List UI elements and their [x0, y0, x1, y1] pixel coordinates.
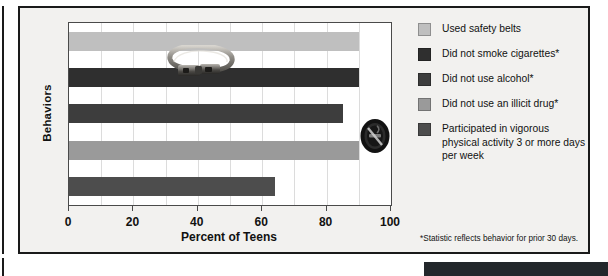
x-tick-label: 20 — [112, 215, 152, 229]
legend-swatch — [418, 98, 431, 111]
legend: Used safety beltsDid not smoke cigarette… — [418, 22, 586, 174]
legend-item-label: Participated in vigorous physical activi… — [442, 122, 586, 163]
x-tick-label: 60 — [241, 215, 281, 229]
bar-row — [69, 169, 391, 205]
x-tick — [132, 206, 133, 211]
legend-item-label: Did not smoke cigarettes* — [442, 47, 559, 61]
bar — [69, 141, 359, 160]
bottom-dark-band — [424, 262, 608, 276]
legend-item[interactable]: Did not use alcohol* — [418, 72, 586, 86]
bar-series — [69, 23, 391, 205]
x-axis-title: Percent of Teens — [68, 230, 390, 244]
x-tick-label: 0 — [48, 215, 88, 229]
lower-left-border-rule — [2, 258, 4, 276]
footnote: *Statistic reflects behavior for prior 3… — [420, 234, 578, 243]
x-tick-label: 80 — [306, 215, 346, 229]
x-tick-label: 100 — [370, 215, 410, 229]
legend-item[interactable]: Participated in vigorous physical activi… — [418, 122, 586, 163]
legend-item-label: Did not use an illicit drug* — [442, 97, 558, 111]
x-tick — [326, 206, 327, 211]
bar-row — [69, 132, 391, 168]
y-axis-title: Behaviors — [36, 28, 58, 198]
x-tick — [390, 206, 391, 211]
bar-row — [69, 23, 391, 59]
bar-row — [69, 59, 391, 95]
chart-figure: Behaviors — [18, 6, 590, 254]
legend-item[interactable]: Used safety belts — [418, 22, 586, 36]
x-tick — [68, 206, 69, 211]
legend-item[interactable]: Did not use an illicit drug* — [418, 97, 586, 111]
x-tick-label: 40 — [177, 215, 217, 229]
bar — [69, 104, 343, 123]
legend-swatch — [418, 73, 431, 86]
legend-swatch — [418, 48, 431, 61]
x-tick — [261, 206, 262, 211]
bar — [69, 177, 275, 196]
legend-swatch — [418, 123, 431, 136]
left-border-rule — [2, 6, 4, 254]
legend-item-label: Used safety belts — [442, 22, 521, 36]
legend-item-label: Did not use alcohol* — [442, 72, 534, 86]
legend-item[interactable]: Did not smoke cigarettes* — [418, 47, 586, 61]
bar-row — [69, 96, 391, 132]
x-tick — [197, 206, 198, 211]
legend-swatch — [418, 23, 431, 36]
bar — [69, 68, 359, 87]
y-axis-title-text: Behaviors — [41, 84, 53, 141]
bar — [69, 32, 359, 51]
plot-area — [68, 22, 392, 206]
